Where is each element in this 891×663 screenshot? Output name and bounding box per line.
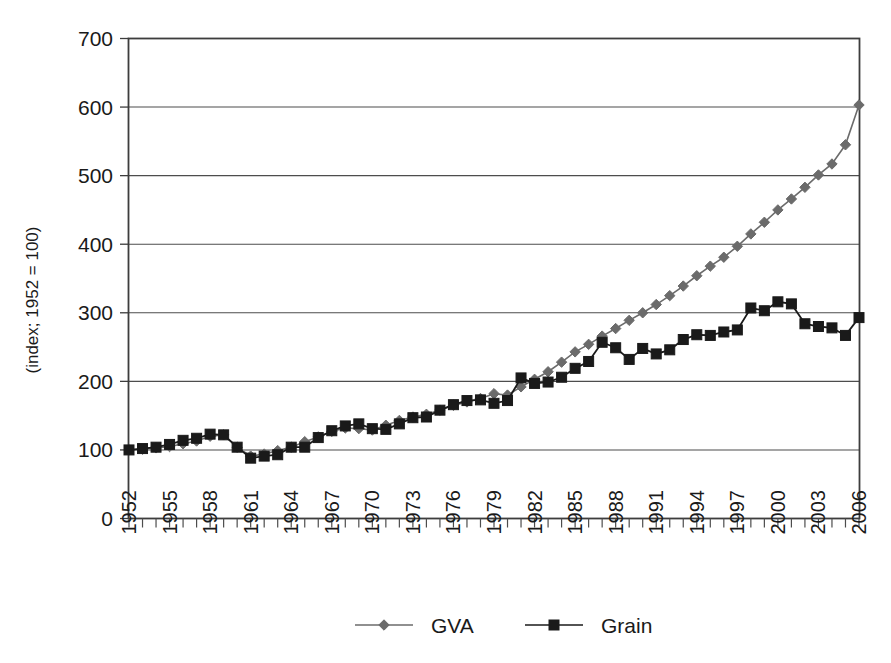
- chart-container: 0100200300400500600700 19521955195819611…: [0, 0, 891, 663]
- data-point-grain: [719, 327, 729, 337]
- y-tick-label: 0: [101, 507, 113, 530]
- data-point-grain: [746, 303, 756, 313]
- y-tick-label: 100: [78, 438, 113, 461]
- x-tick-label: 1985: [564, 490, 586, 535]
- data-point-grain: [773, 297, 783, 307]
- data-point-grain: [840, 330, 850, 340]
- data-point-grain: [624, 354, 634, 364]
- data-point-grain: [475, 395, 485, 405]
- data-point-grain: [367, 424, 377, 434]
- data-point-grain: [408, 413, 418, 423]
- data-point-grain: [570, 363, 580, 373]
- data-point-grain: [313, 433, 323, 443]
- x-tick-label: 1973: [402, 490, 424, 535]
- data-point-grain: [246, 453, 256, 463]
- data-point-grain: [759, 306, 769, 316]
- x-tick-label: 1979: [483, 490, 505, 535]
- data-point-grain: [205, 429, 215, 439]
- data-point-grain: [584, 356, 594, 366]
- data-point-grain: [462, 396, 472, 406]
- x-tick-label: 1967: [321, 490, 343, 535]
- data-point-grain: [516, 373, 526, 383]
- data-point-grain: [678, 335, 688, 345]
- y-tick-label: 300: [78, 301, 113, 324]
- data-point-grain: [178, 435, 188, 445]
- data-point-grain: [448, 400, 458, 410]
- x-tick-label: 2006: [848, 490, 870, 535]
- x-tick-label: 1976: [442, 490, 464, 535]
- data-point-grain: [124, 445, 134, 455]
- x-tick-label: 1994: [686, 490, 708, 535]
- data-point-grain: [259, 451, 269, 461]
- data-point-grain: [813, 322, 823, 332]
- legend-marker-square-icon: [549, 620, 559, 630]
- data-point-grain: [273, 450, 283, 460]
- data-point-grain: [354, 419, 364, 429]
- x-tick-label: 1955: [159, 490, 181, 535]
- data-point-grain: [300, 442, 310, 452]
- data-point-grain: [219, 430, 229, 440]
- x-tick-label: 1958: [199, 490, 221, 535]
- legend-label: Grain: [601, 614, 652, 637]
- data-point-grain: [530, 378, 540, 388]
- y-tick-label: 200: [78, 370, 113, 393]
- y-axis-title: (index; 1952 = 100): [23, 227, 42, 374]
- data-point-grain: [665, 345, 675, 355]
- data-point-grain: [597, 337, 607, 347]
- data-point-grain: [489, 398, 499, 408]
- data-point-grain: [421, 412, 431, 422]
- y-tick-label: 700: [78, 27, 113, 50]
- data-point-grain: [503, 396, 513, 406]
- data-point-grain: [232, 442, 242, 452]
- y-tick-label: 400: [78, 233, 113, 256]
- x-tick-label: 1991: [645, 490, 667, 535]
- data-point-grain: [557, 372, 567, 382]
- data-point-grain: [705, 330, 715, 340]
- data-point-grain: [192, 433, 202, 443]
- chart-background: [0, 0, 891, 663]
- data-point-grain: [732, 325, 742, 335]
- y-tick-label: 600: [78, 96, 113, 119]
- data-point-grain: [800, 319, 810, 329]
- x-tick-label: 1952: [118, 490, 140, 535]
- x-tick-label: 1961: [240, 490, 262, 535]
- data-point-grain: [327, 426, 337, 436]
- x-tick-label: 1997: [726, 490, 748, 535]
- data-point-grain: [340, 421, 350, 431]
- chart-svg: 0100200300400500600700 19521955195819611…: [0, 0, 891, 663]
- data-point-grain: [854, 313, 864, 323]
- data-point-grain: [138, 444, 148, 454]
- data-point-grain: [692, 330, 702, 340]
- data-point-grain: [151, 442, 161, 452]
- x-tick-label: 1988: [605, 490, 627, 535]
- data-point-grain: [543, 377, 553, 387]
- data-point-grain: [381, 424, 391, 434]
- x-tick-label: 1970: [361, 490, 383, 535]
- data-point-grain: [435, 405, 445, 415]
- data-point-grain: [165, 439, 175, 449]
- x-tick-label: 2000: [767, 490, 789, 535]
- y-tick-label: 500: [78, 164, 113, 187]
- data-point-grain: [394, 419, 404, 429]
- legend-label: GVA: [431, 614, 474, 637]
- data-point-grain: [638, 343, 648, 353]
- data-point-grain: [611, 343, 621, 353]
- data-point-grain: [286, 442, 296, 452]
- x-tick-label: 1964: [280, 490, 302, 535]
- data-point-grain: [827, 323, 837, 333]
- data-point-grain: [651, 349, 661, 359]
- data-point-grain: [786, 299, 796, 309]
- x-tick-label: 2003: [807, 490, 829, 535]
- x-tick-label: 1982: [524, 490, 546, 535]
